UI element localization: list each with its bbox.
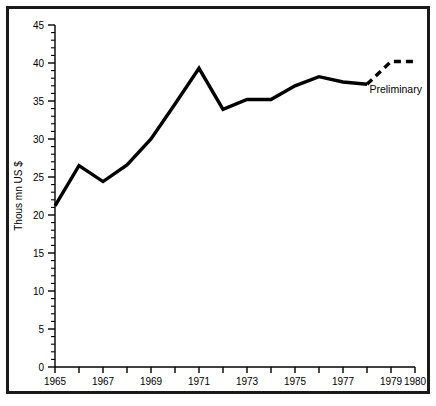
x-tick-label: 1973 (236, 376, 259, 387)
y-axis-group: 051015202530354045Thous mn US $ (13, 20, 55, 373)
y-tick-label: 10 (33, 286, 45, 297)
line-chart-plot: 051015202530354045Thous mn US $ 19651967… (0, 0, 436, 406)
y-tick-label: 25 (33, 172, 45, 183)
x-tick-label: 1980 (404, 376, 427, 387)
y-tick-label: 15 (33, 248, 45, 259)
annotations-group: Preliminary (369, 83, 422, 95)
y-tick-label: 0 (38, 362, 44, 373)
series-group (55, 61, 415, 205)
preliminary-label: Preliminary (369, 83, 422, 95)
y-tick-label: 20 (33, 210, 45, 221)
y-tick-label: 40 (33, 58, 45, 69)
data-series-preliminary (367, 61, 415, 84)
x-tick-label: 1977 (332, 376, 355, 387)
x-tick-label: 1965 (44, 376, 67, 387)
data-series-actual (55, 68, 367, 206)
x-tick-label: 1969 (140, 376, 163, 387)
chart-figure: 051015202530354045Thous mn US $ 19651967… (0, 0, 436, 406)
y-axis-title: Thous mn US $ (13, 161, 24, 231)
y-tick-label: 45 (33, 20, 45, 31)
x-tick-label: 1979 (380, 376, 403, 387)
x-axis-group: 196519671969197119731975197719791980 (44, 367, 427, 387)
x-tick-label: 1967 (92, 376, 115, 387)
y-tick-label: 5 (38, 324, 44, 335)
x-tick-label: 1971 (188, 376, 211, 387)
y-tick-label: 35 (33, 96, 45, 107)
y-tick-label: 30 (33, 134, 45, 145)
x-tick-label: 1975 (284, 376, 307, 387)
